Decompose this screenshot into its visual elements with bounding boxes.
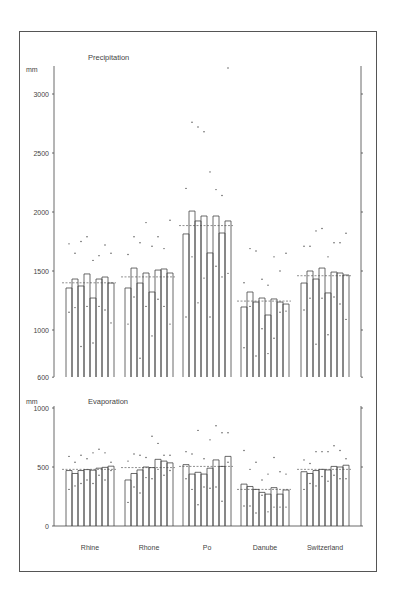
bar [331,272,337,377]
bar-group-rhone [121,436,175,526]
scatter-point [86,306,87,307]
scatter-point [145,306,146,307]
scatter-point [273,506,274,507]
precipitation-unit: mm [26,66,38,73]
bar [337,273,343,377]
bar [265,494,271,526]
scatter-point [110,322,111,323]
scatter-point [279,270,280,271]
bar [90,470,96,526]
bar [307,271,313,377]
bar [241,484,247,526]
scatter-point [333,475,334,476]
bar [337,467,343,526]
scatter-point [279,312,280,313]
bar [277,302,283,377]
bar [259,298,265,377]
x-label-po: Po [203,544,212,551]
scatter-point [74,307,75,308]
scatter-point [285,310,286,311]
scatter-point [92,342,93,343]
bar [108,283,114,377]
scatter-point [209,316,210,317]
scatter-point [110,470,111,471]
scatter-point [249,248,250,249]
scatter-point [74,253,75,254]
bar-group-danube [237,248,291,377]
bar [66,288,72,377]
bar [84,274,90,377]
scatter-point [92,452,93,453]
scatter-point [309,297,310,298]
scatter-point [151,436,152,437]
scatter-point [315,485,316,486]
bar [161,269,167,377]
scatter-point [80,346,81,347]
scatter-point [209,439,210,440]
scatter-point [215,266,216,267]
scatter-point [127,254,128,255]
y-tick-label: 1500 [33,268,49,275]
scatter-point [104,452,105,453]
bar [325,470,331,526]
bar [137,283,143,377]
scatter-point [345,458,346,459]
scatter-point [303,489,304,490]
scatter-point [273,256,274,257]
scatter-point [267,473,268,474]
bar [72,473,78,526]
scatter-point [285,473,286,474]
scatter-point [203,131,204,132]
scatter-point [309,483,310,484]
scatter-point [261,279,262,280]
scatter-point [255,250,256,251]
bar [277,494,283,526]
scatter-point [203,458,204,459]
scatter-point [151,478,152,479]
scatter-point [315,343,316,344]
scatter-point [339,478,340,479]
scatter-point [327,256,328,257]
bar [307,473,313,526]
scatter-point [243,282,244,283]
bar [102,277,108,377]
scatter-point [327,451,328,452]
bar [189,211,195,377]
scatter-point [169,455,170,456]
scatter-point [273,338,274,339]
scatter-point [151,335,152,336]
scatter-point [157,236,158,237]
bar [167,273,173,377]
scatter-point [227,67,228,68]
scatter-point [110,462,111,463]
scatter-point [169,220,170,221]
scatter-point [303,246,304,247]
scatter-point [169,323,170,324]
scatter-point [345,233,346,234]
scatter-point [133,453,134,454]
y-tick-label: 1000 [33,327,49,334]
scatter-point [163,306,164,307]
scatter-point [333,242,334,243]
x-label-danube: Danube [253,544,278,551]
bar [343,465,349,526]
y-tick-label: 500 [37,464,49,471]
x-axis-labels: RhineRhonePoDanubeSwitzerland [81,544,343,551]
bar [167,463,173,526]
scatter-point [163,455,164,456]
bar [149,468,155,526]
scatter-point [163,475,164,476]
scatter-point [321,297,322,298]
scatter-point [255,355,256,356]
scatter-point [157,299,158,300]
bar [161,461,167,526]
bar [253,489,259,526]
precipitation-bars [62,67,351,377]
chart-canvas: Precipitation mm 60010001500200025003000… [0,0,398,600]
x-label-rhine: Rhine [81,544,99,551]
scatter-point [191,489,192,490]
y-tick-label: 1000 [33,405,49,412]
scatter-point [133,236,134,237]
bar-group-po [179,425,233,526]
scatter-point [80,455,81,456]
